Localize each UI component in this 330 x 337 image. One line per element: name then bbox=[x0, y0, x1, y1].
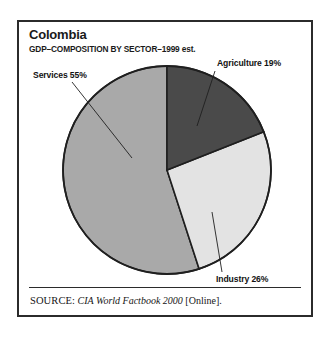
pie-label-agriculture: Agriculture 19% bbox=[217, 58, 281, 68]
figure-frame: Colombia GDP–COMPOSITION BY SECTOR–1999 … bbox=[17, 20, 313, 317]
source-work-title: CIA World Factbook 2000 bbox=[75, 295, 183, 306]
pie-label-industry: Industry 26% bbox=[216, 274, 268, 284]
source-divider bbox=[29, 287, 301, 288]
pie-label-services: Services 55% bbox=[33, 70, 87, 80]
pie-chart-plot-area: Services 55% Agriculture 19% Industry 26… bbox=[19, 22, 311, 315]
source-label: SOURCE: bbox=[30, 295, 75, 306]
source-note: SOURCE: CIA World Factbook 2000 [Online]… bbox=[30, 294, 222, 307]
source-medium: [Online]. bbox=[183, 295, 222, 306]
